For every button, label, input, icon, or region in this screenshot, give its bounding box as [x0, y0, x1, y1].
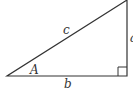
label-angle: A — [29, 63, 39, 77]
label-opposite: a — [130, 31, 133, 45]
label-hypotenuse: c — [63, 23, 70, 37]
right-triangle-diagram: c A b a — [0, 0, 133, 90]
label-base: b — [64, 77, 72, 90]
right-angle-marker — [118, 67, 127, 76]
triangle-outline — [7, 0, 127, 76]
